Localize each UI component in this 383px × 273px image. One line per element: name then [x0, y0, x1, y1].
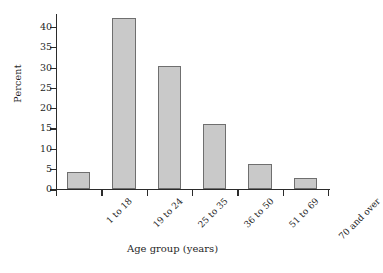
y-tick-label: 35: [40, 40, 52, 53]
x-axis-title: Age group (years): [0, 243, 345, 254]
x-tick-label: 36 to 50: [242, 196, 276, 230]
x-tick-label: 19 to 24: [151, 196, 185, 230]
y-tick-label: 5: [46, 162, 52, 175]
y-tick-label: 0: [46, 182, 52, 195]
bar: [112, 18, 136, 189]
x-tick-label: 25 to 35: [196, 196, 230, 230]
x-tick-label: 1 to 18: [104, 196, 134, 226]
y-axis-title: Percent: [12, 39, 23, 129]
x-tick-label: 51 to 69: [287, 196, 321, 230]
y-tick-label: 25: [40, 81, 52, 94]
y-tick-label: 30: [40, 61, 52, 74]
bar: [203, 124, 227, 188]
x-axis-tick-labels: 1 to 1819 to 2425 to 3536 to 5051 to 697…: [56, 190, 328, 250]
plot-area: 0510152025303540 1 to 1819 to 2425 to 35…: [56, 18, 328, 190]
y-tick-label: 20: [40, 101, 52, 114]
x-tick-label: 70 and over: [337, 196, 382, 241]
bar: [158, 66, 182, 189]
x-tick-mark: [328, 190, 329, 196]
bar: [248, 164, 272, 189]
bar-series: [56, 18, 328, 189]
y-tick-label: 40: [40, 20, 52, 33]
y-tick-label: 10: [40, 142, 52, 155]
bar: [294, 178, 318, 188]
bar: [67, 172, 91, 189]
y-tick-label: 15: [40, 121, 52, 134]
